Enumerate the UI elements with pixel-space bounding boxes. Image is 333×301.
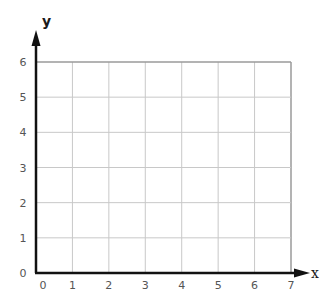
y-tick-label: 0 bbox=[20, 267, 27, 280]
x-axis-arrow-icon bbox=[294, 269, 310, 278]
y-tick-label: 6 bbox=[20, 56, 27, 69]
x-tick-label: 5 bbox=[215, 279, 222, 292]
coordinate-grid-chart: 01234567 0123456 y x bbox=[0, 0, 333, 301]
y-tick-label: 2 bbox=[20, 197, 27, 210]
y-axis-ticks: 0123456 bbox=[20, 56, 27, 280]
y-axis-label: y bbox=[42, 13, 51, 29]
x-axis-label: x bbox=[311, 265, 319, 281]
x-tick-label: 7 bbox=[288, 279, 295, 292]
x-tick-label: 4 bbox=[178, 279, 185, 292]
grid-lines bbox=[36, 62, 291, 273]
y-tick-label: 5 bbox=[20, 91, 27, 104]
y-axis-arrow-icon bbox=[32, 30, 41, 46]
y-tick-label: 4 bbox=[20, 126, 27, 139]
x-tick-label: 3 bbox=[142, 279, 149, 292]
x-tick-label: 2 bbox=[105, 279, 112, 292]
x-tick-label: 0 bbox=[40, 279, 47, 292]
x-axis-ticks: 01234567 bbox=[40, 279, 295, 292]
x-tick-label: 1 bbox=[69, 279, 76, 292]
y-tick-label: 3 bbox=[20, 162, 27, 175]
y-tick-label: 1 bbox=[20, 232, 27, 245]
x-tick-label: 6 bbox=[251, 279, 258, 292]
